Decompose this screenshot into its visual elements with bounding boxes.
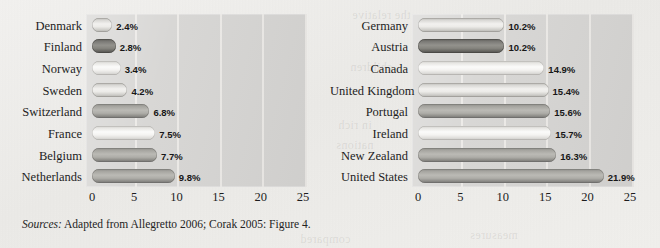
gridline-15 (220, 14, 222, 187)
category-label-france: France (0, 128, 82, 141)
bar-denmark (92, 18, 112, 32)
value-label-france: 7.5% (159, 130, 181, 140)
bar-france (92, 126, 155, 140)
x-tick-label-20: 20 (241, 191, 281, 204)
bar-portugal (418, 104, 550, 118)
ghost-text-5: compared (300, 232, 351, 247)
value-label-belgium: 7.7% (161, 152, 183, 162)
figure-source-note: Sources: Adapted from Allegretto 2006; C… (22, 218, 311, 230)
gridline-20 (589, 14, 591, 187)
x-tick-label-20: 20 (568, 191, 608, 204)
category-label-united-states: United States (330, 171, 408, 184)
bar-netherlands (92, 169, 175, 183)
bar-germany (418, 18, 504, 32)
category-label-belgium: Belgium (0, 150, 82, 163)
source-note-label: Sources: (22, 218, 62, 230)
ghost-text-6: measures (470, 228, 518, 243)
bar-finland (92, 39, 116, 53)
bar-united-kingdom (418, 83, 549, 97)
bar-belgium (92, 148, 157, 162)
x-tick-label-15: 15 (525, 191, 565, 204)
bar-switzerland (92, 104, 149, 118)
value-label-finland: 2.8% (120, 43, 142, 53)
category-label-finland: Finland (0, 41, 82, 54)
x-tick-label-25: 25 (283, 191, 323, 204)
bar-sweden (92, 83, 127, 97)
x-tick-label-5: 5 (440, 191, 480, 204)
value-label-ireland: 15.7% (555, 130, 582, 140)
category-label-austria: Austria (330, 41, 408, 54)
bar-ireland (418, 126, 551, 140)
value-label-denmark: 2.4% (116, 22, 138, 32)
bar-norway (92, 61, 121, 75)
bar-austria (418, 39, 504, 53)
value-label-united-kingdom: 15.4% (553, 87, 580, 97)
category-label-sweden: Sweden (0, 85, 82, 98)
source-note-text: Adapted from Allegretto 2006; Corak 2005… (62, 218, 311, 230)
gridline-25 (632, 14, 634, 187)
value-label-germany: 10.2% (508, 22, 535, 32)
x-tick-label-15: 15 (199, 191, 239, 204)
gridline-25 (305, 14, 307, 187)
x-tick-label-10: 10 (156, 191, 196, 204)
category-label-denmark: Denmark (0, 20, 82, 33)
value-label-canada: 14.9% (548, 65, 575, 75)
x-tick-label-25: 25 (610, 191, 650, 204)
gridline-20 (262, 14, 264, 187)
x-tick-label-5: 5 (114, 191, 154, 204)
value-label-netherlands: 9.8% (179, 173, 201, 183)
value-label-norway: 3.4% (125, 65, 147, 75)
value-label-sweden: 4.2% (131, 87, 153, 97)
value-label-united-states: 21.9% (608, 173, 635, 183)
value-label-austria: 10.2% (508, 43, 535, 53)
bar-canada (418, 61, 544, 75)
x-tick-label-10: 10 (483, 191, 523, 204)
category-label-germany: Germany (330, 20, 408, 33)
x-tick-label-0: 0 (72, 191, 112, 204)
category-label-canada: Canada (330, 63, 408, 76)
value-label-switzerland: 6.8% (153, 108, 175, 118)
category-label-ireland: Ireland (330, 128, 408, 141)
bar-united-states (418, 169, 604, 183)
category-label-netherlands: Netherlands (0, 171, 82, 184)
value-label-new-zealand: 16.3% (560, 152, 587, 162)
bar-new-zealand (418, 148, 556, 162)
category-label-norway: Norway (0, 63, 82, 76)
x-tick-label-0: 0 (398, 191, 438, 204)
value-label-portugal: 15.6% (554, 108, 581, 118)
category-label-portugal: Portugal (330, 106, 408, 119)
category-label-new-zealand: New Zealand (330, 150, 408, 163)
category-label-switzerland: Switzerland (0, 106, 82, 119)
category-label-united-kingdom: United Kingdom (330, 85, 408, 98)
